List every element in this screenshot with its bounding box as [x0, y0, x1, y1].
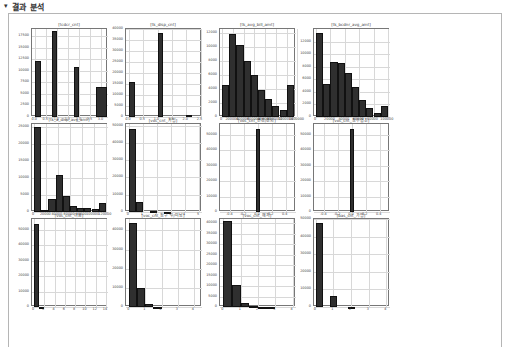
y-tick-label: 25000	[197, 252, 217, 256]
histogram-bar	[350, 129, 353, 212]
histogram-bar	[366, 108, 373, 117]
gridline-vertical	[145, 219, 146, 307]
gridline-horizontal	[126, 250, 202, 251]
y-tick-label: 35000	[197, 231, 217, 235]
x-tick-label: 4	[377, 307, 393, 311]
y-tick-label: 30000	[197, 241, 217, 245]
y-tick-label: 4000	[291, 89, 311, 93]
plot-title: [tcdcr_cnt]	[31, 22, 107, 27]
gridline-vertical	[338, 124, 339, 212]
x-tick-label: 1	[232, 307, 248, 311]
gridline-vertical	[258, 219, 259, 307]
gridline-horizontal	[32, 292, 108, 293]
histogram-bar	[229, 34, 236, 117]
gridline-vertical	[96, 219, 97, 307]
y-tick-label: 10000	[103, 92, 123, 96]
gridline-vertical	[386, 219, 387, 307]
y-tick-label: 10000	[9, 175, 29, 179]
histogram-bar	[52, 31, 58, 117]
y-tick-label: 7500	[9, 79, 29, 83]
gridline-horizontal	[126, 195, 202, 196]
plot-axes	[313, 123, 389, 211]
histogram-bar	[35, 61, 41, 117]
gridline-horizontal	[314, 79, 390, 80]
y-tick-label: 35000	[103, 37, 123, 41]
y-tick-label: 2000	[197, 100, 217, 104]
gridline-vertical	[351, 219, 352, 307]
histogram-bar	[316, 223, 323, 307]
histogram-bar	[244, 61, 251, 117]
gridline-horizontal	[126, 177, 202, 178]
plot-axes	[219, 123, 295, 211]
gridline-vertical	[244, 124, 245, 212]
y-tick-label: 40000	[197, 147, 217, 151]
x-tick-label: 3	[360, 307, 376, 311]
y-tick-label: 40000	[103, 26, 123, 30]
gridline-horizontal	[126, 62, 202, 63]
plot-axes	[31, 28, 107, 116]
histogram-bar	[232, 285, 241, 307]
gridline-horizontal	[314, 54, 390, 55]
plot-axes	[125, 28, 201, 116]
y-tick-label: 40000	[103, 140, 123, 144]
gridline-vertical	[241, 219, 242, 307]
gridline-horizontal	[126, 73, 202, 74]
y-tick-label: 15000	[9, 45, 29, 49]
histogram-bar	[280, 110, 287, 117]
gridline-vertical	[276, 29, 277, 117]
plot-axes	[31, 123, 107, 211]
x-tick-label: 3	[266, 307, 282, 311]
histogram-bar	[330, 296, 337, 307]
y-tick-label: 20000	[103, 266, 123, 270]
gridline-horizontal	[314, 42, 390, 43]
gridline-horizontal	[32, 127, 108, 128]
gridline-horizontal	[314, 67, 390, 68]
histogram-bar	[258, 90, 265, 117]
plot-axes	[125, 123, 201, 211]
y-tick-label: 10000	[103, 285, 123, 289]
plot-title: [tk_bcdnr_avg_amt]	[313, 22, 389, 27]
gridline-vertical	[44, 219, 45, 307]
y-tick-label: 20000	[197, 178, 217, 182]
collapse-arrow-icon[interactable]: ▾	[4, 2, 8, 10]
gridline-horizontal	[126, 126, 202, 127]
y-tick-label: 10000	[291, 194, 311, 198]
gridline-vertical	[171, 124, 172, 212]
gridline-vertical	[82, 124, 83, 212]
y-tick-label: 50000	[291, 216, 311, 220]
gridline-vertical	[46, 124, 47, 212]
gridline-vertical	[185, 124, 186, 212]
histogram-bar	[34, 224, 39, 307]
gridline-horizontal	[126, 84, 202, 85]
y-tick-label: 2000	[291, 101, 311, 105]
gridline-vertical	[178, 219, 179, 307]
gridline-horizontal	[32, 144, 108, 145]
gridline-vertical	[55, 219, 56, 307]
y-tick-label: 20000	[291, 178, 311, 182]
histogram-bar	[352, 87, 359, 117]
y-tick-label: 40000	[291, 234, 311, 238]
plot-axes	[219, 28, 295, 116]
y-tick-label: 30000	[9, 258, 29, 262]
gridline-horizontal	[32, 48, 108, 49]
gridline-vertical	[286, 124, 287, 212]
y-tick-label: 15000	[197, 273, 217, 277]
gridline-vertical	[79, 29, 80, 117]
plot-title: [tk_avg_bill_amt]	[219, 22, 295, 27]
gridline-horizontal	[126, 269, 202, 270]
gridline-vertical	[157, 124, 158, 212]
histogram-bar	[338, 63, 345, 117]
histogram-bar	[34, 127, 41, 212]
gridline-horizontal	[32, 36, 108, 37]
y-tick-label: 30000	[291, 251, 311, 255]
histogram-bar	[48, 199, 55, 212]
y-tick-label: 10000	[197, 194, 217, 198]
y-tick-label: 20000	[291, 269, 311, 273]
y-tick-label: 15000	[103, 81, 123, 85]
gridline-vertical	[85, 219, 86, 307]
histogram-bar	[129, 129, 136, 212]
histogram-bar	[129, 223, 137, 307]
y-tick-label: 10000	[197, 44, 217, 48]
y-tick-label: 6000	[197, 72, 217, 76]
gridline-vertical	[65, 219, 66, 307]
